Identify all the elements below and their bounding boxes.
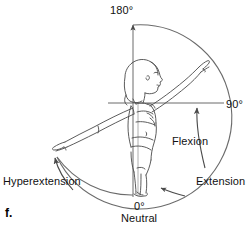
angle-label-180: 180° [110,4,133,16]
flexion-label: Flexion [172,135,208,147]
angle-label-90: 90° [226,98,243,110]
figure-panel: 180° 90° 0° Neutral Flexion Extension Hy… [0,0,250,228]
hyperextension-label: Hyperextension [3,175,81,187]
extension-label: Extension [196,175,245,187]
neutral-position-label: Neutral [121,212,157,224]
range-of-motion-diagram [0,0,250,228]
angle-label-0: 0° [134,200,145,212]
extension-arrow-icon [161,188,185,196]
panel-caption-label: f. [5,206,12,220]
